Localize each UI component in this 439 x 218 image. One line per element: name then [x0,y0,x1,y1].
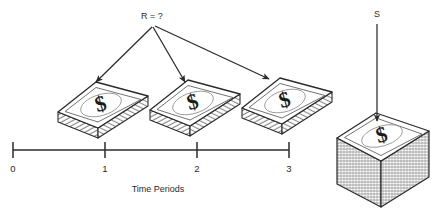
diagram-canvas: $ $ 0 [0,0,439,218]
sum-stack [337,113,429,207]
receipts-annotation: R = ? [96,11,269,82]
sum-annotation: S [374,9,380,121]
receipt-arrow-to-period-2 [153,27,185,82]
receipts-label: R = ? [141,11,163,21]
axis-tick-label-1: 1 [102,163,107,174]
sum-label: S [374,9,380,19]
receipt-arrow-to-period-1 [96,27,152,82]
axis-tick-label-3: 3 [286,163,291,174]
receipt-stack-period-3 [242,78,332,134]
receipt-stack-period-2 [150,80,240,136]
axis-tick-label-0: 0 [10,163,15,174]
axis-tick-label-2: 2 [194,163,199,174]
receipt-arrow-to-period-3 [155,26,269,79]
receipt-stack-period-1 [58,82,148,138]
cash-flow-diagram: $ $ 0 [0,0,439,218]
time-axis: 0 1 2 3 Time Periods [10,142,291,194]
axis-caption: Time Periods [132,184,185,194]
